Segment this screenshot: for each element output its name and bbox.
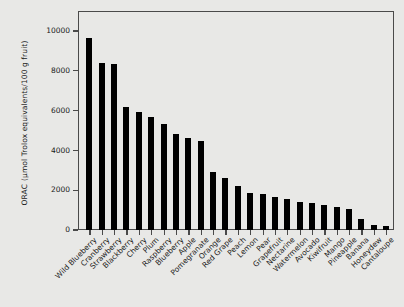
bar: [99, 63, 105, 230]
x-axis-tick-mark: [164, 230, 165, 235]
y-axis-tick-label: 4000: [51, 146, 70, 154]
bar-slot: [108, 11, 120, 230]
bar: [309, 203, 315, 230]
bar: [210, 172, 216, 230]
bar-slot: [355, 11, 367, 230]
bar-slot: [83, 11, 95, 230]
bar: [161, 124, 167, 230]
x-axis-tick-mark: [201, 230, 202, 235]
x-axis-tick-mark: [225, 230, 226, 235]
bar: [123, 107, 129, 230]
bar-slot: [318, 11, 330, 230]
bar-slot: [244, 11, 256, 230]
bar-slot: [232, 11, 244, 230]
bar: [148, 117, 154, 230]
bar-slot: [293, 11, 305, 230]
x-axis-tick-mark: [386, 230, 387, 235]
bar-slot: [145, 11, 157, 230]
bar-slot: [331, 11, 343, 230]
y-axis-tick-label: 0: [65, 226, 70, 234]
x-axis-tick-mark: [337, 230, 338, 235]
x-axis-tick-mark: [151, 230, 152, 235]
x-axis-tick-mark: [102, 230, 103, 235]
x-axis-tick-mark: [312, 230, 313, 235]
bar-slot: [380, 11, 392, 230]
bar: [334, 207, 340, 230]
bar: [346, 209, 352, 230]
x-axis-tick-mark: [188, 230, 189, 235]
bar-slot: [306, 11, 318, 230]
x-axis-tick-mark: [275, 230, 276, 235]
bar: [185, 138, 191, 230]
bar-slot: [343, 11, 355, 230]
x-axis-tick-mark: [300, 230, 301, 235]
x-axis-tick-mark: [213, 230, 214, 235]
x-axis-tick-mark: [139, 230, 140, 235]
x-axis-tick-mark: [176, 230, 177, 235]
bar: [284, 199, 290, 230]
x-axis-labels: Wild BlueberryCranberryStrawberryBlackbe…: [78, 236, 404, 307]
bar-slot: [207, 11, 219, 230]
x-axis-tick-mark: [374, 230, 375, 235]
bar-slot: [133, 11, 145, 230]
x-axis-tick-mark: [287, 230, 288, 235]
x-axis-tick-mark: [250, 230, 251, 235]
x-axis-tick-mark: [89, 230, 90, 235]
bar: [321, 205, 327, 230]
bars-layer: [78, 11, 394, 230]
bar-slot: [170, 11, 182, 230]
bar: [173, 134, 179, 230]
x-axis-tick-mark: [361, 230, 362, 235]
y-axis-title-line-1: ORAC: [21, 184, 29, 205]
x-axis-tick-mark: [263, 230, 264, 235]
bar: [247, 193, 253, 230]
bar: [260, 194, 266, 230]
x-axis-tick-mark: [126, 230, 127, 235]
bar-slot: [368, 11, 380, 230]
bar: [222, 178, 228, 230]
x-axis-tick-mark: [114, 230, 115, 235]
y-axis-title: ORAC (µmol Trolox equivalents/100 g frui…: [8, 0, 42, 248]
bar: [272, 197, 278, 230]
bar-slot: [120, 11, 132, 230]
bar: [235, 186, 241, 230]
bar: [111, 64, 117, 230]
bar-slot: [195, 11, 207, 230]
y-axis-tick-label: 2000: [51, 186, 70, 194]
bar-slot: [182, 11, 194, 230]
bar-slot: [157, 11, 169, 230]
bar-slot: [281, 11, 293, 230]
x-axis-tick-mark: [238, 230, 239, 235]
bar: [358, 219, 364, 230]
bar: [297, 202, 303, 230]
bar-slot: [269, 11, 281, 230]
orac-bar-chart: ORAC (µmol Trolox equivalents/100 g frui…: [0, 0, 404, 307]
x-axis-tick-mark: [324, 230, 325, 235]
bar-slot: [256, 11, 268, 230]
y-axis-tick-label: 10000: [46, 27, 70, 35]
x-axis-tick-mark: [349, 230, 350, 235]
y-axis-tick-label: 6000: [51, 106, 70, 114]
bar: [86, 38, 92, 230]
bar-slot: [96, 11, 108, 230]
bar: [198, 141, 204, 230]
y-axis-tick-label: 8000: [51, 66, 70, 74]
bar: [136, 112, 142, 230]
y-axis-title-line-2: (µmol Trolox equivalents/100 g fruit): [21, 41, 29, 181]
bar-slot: [219, 11, 231, 230]
